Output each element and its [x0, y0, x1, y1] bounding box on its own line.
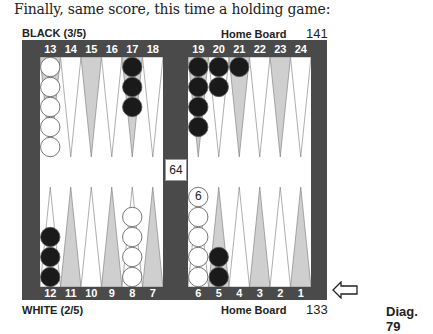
- doubling-cube[interactable]: 64: [165, 159, 187, 181]
- point-number: 17: [122, 43, 143, 55]
- turn-arrow-icon: [332, 281, 358, 303]
- backgammon-board: 13 14 15 16 17 18 19 20 21 22 23 24: [22, 40, 327, 300]
- point-number: 14: [61, 43, 82, 55]
- point-number: 21: [229, 43, 250, 55]
- point-number: 16: [102, 43, 123, 55]
- checker-count-label: 6: [188, 189, 209, 203]
- home-board: 6: [188, 57, 311, 287]
- point-number: 4: [229, 287, 250, 299]
- point-number: 20: [209, 43, 230, 55]
- point-number: 2: [270, 287, 291, 299]
- point-number: 3: [250, 287, 271, 299]
- point-number: 15: [81, 43, 102, 55]
- outer-board: [40, 57, 163, 287]
- black-pip-count: 141: [306, 26, 328, 41]
- point-number: 18: [143, 43, 164, 55]
- point-number: 19: [188, 43, 209, 55]
- caption: Finally, same score, this time a holding…: [14, 1, 330, 17]
- point-number: 11: [61, 287, 82, 299]
- point-number: 6: [188, 287, 209, 299]
- point-number: 9: [102, 287, 123, 299]
- point-number: 12: [40, 287, 61, 299]
- diagram-label: Diag. 79: [386, 304, 433, 334]
- white-home-board-label: Home Board: [221, 304, 286, 316]
- point-number: 22: [250, 43, 271, 55]
- point-number: 7: [143, 287, 164, 299]
- point-number: 10: [81, 287, 102, 299]
- black-home-board-label: Home Board: [221, 28, 286, 40]
- white-player-label: WHITE (2/5): [22, 304, 83, 316]
- point-number: 24: [291, 43, 312, 55]
- point-number: 23: [270, 43, 291, 55]
- point-number: 1: [291, 287, 312, 299]
- point-number: 13: [40, 43, 61, 55]
- black-player-label: BLACK (3/5): [22, 27, 86, 39]
- point-number: 5: [209, 287, 230, 299]
- point-number: 8: [122, 287, 143, 299]
- white-pip-count: 133: [306, 302, 328, 317]
